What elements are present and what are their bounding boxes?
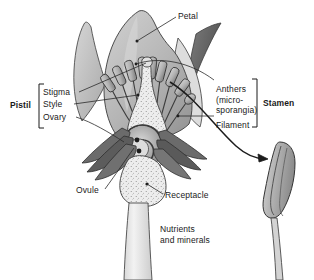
label-style: Style [43,99,62,110]
label-ovule: Ovule [76,185,99,196]
magnified-anther [263,142,295,280]
anther-magnified-filament [271,218,283,280]
ovule [137,149,142,154]
label-pistil-group: Pistil [10,100,31,111]
label-stigma: Stigma [43,87,70,98]
stem [124,203,152,280]
label-petal: Petal [178,11,198,22]
petal-left-back [74,22,106,121]
label-nutrients: Nutrients and minerals [160,224,210,245]
callout-arrow-head [258,154,268,162]
label-receptacle: Receptacle [165,190,209,201]
label-anthers: Anthers (micro- sporangia) [216,84,257,116]
flower-diagram: Petal Pistil Stigma Style Ovary Anthers … [0,0,314,280]
label-ovary: Ovary [43,112,66,123]
ovule [135,138,140,143]
label-stamen-group: Stamen [263,98,294,109]
label-filament: Filament [216,120,249,131]
flower-illustration [0,0,314,280]
